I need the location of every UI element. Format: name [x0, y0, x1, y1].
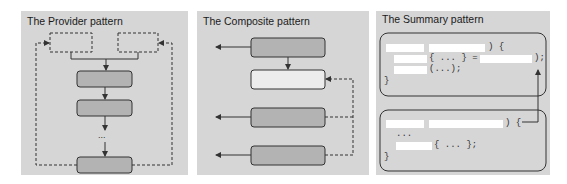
diagram-graphics [0, 0, 567, 184]
composite-diagram [216, 38, 353, 165]
summary-code-block-1 [380, 33, 546, 96]
code-text: { ... }; [434, 140, 477, 150]
composite-top-node [251, 38, 325, 57]
code-text: ); [534, 53, 545, 63]
code-blank [429, 120, 503, 128]
code-blank [429, 44, 485, 52]
code-text: { ... } = [429, 53, 478, 63]
composite-child-1-node [251, 108, 325, 127]
provider-source-right-node [118, 33, 158, 52]
provider-source-left-node [50, 33, 92, 52]
code-text: ) { [488, 42, 504, 52]
provider-step-n-node [77, 157, 132, 173]
composite-child-2-node [251, 146, 325, 165]
provider-step-1-node [77, 71, 132, 87]
code-text: } [384, 76, 389, 86]
code-blank [386, 44, 424, 52]
code-blank [394, 66, 427, 74]
code-blank [396, 142, 432, 150]
code-text: ) { [505, 118, 521, 128]
code-blank [394, 55, 427, 63]
composite-root-node [251, 70, 325, 89]
provider-step-2-node [77, 100, 132, 116]
code-text: ... [396, 129, 412, 139]
provider-diagram [36, 33, 172, 173]
code-blank [480, 55, 532, 63]
code-text: (...); [429, 64, 461, 74]
code-text: } [384, 152, 389, 162]
code-blank [386, 120, 424, 128]
provider-ellipsis: ... [98, 130, 106, 140]
